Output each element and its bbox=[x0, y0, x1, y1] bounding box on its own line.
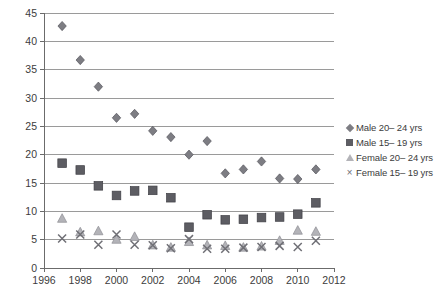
data-point-diamond bbox=[167, 133, 175, 142]
legend-item-male-15-19[interactable]: Male 15– 19 yrs bbox=[344, 135, 444, 150]
data-point-diamond bbox=[239, 165, 247, 174]
square-marker-icon bbox=[344, 136, 355, 149]
data-point-triangle bbox=[58, 214, 67, 223]
data-point-cross bbox=[312, 237, 320, 245]
data-point-square bbox=[130, 187, 139, 196]
data-point-diamond bbox=[130, 109, 138, 118]
data-point-diamond bbox=[294, 174, 302, 183]
y-axis-tick-label: 25 bbox=[25, 120, 37, 132]
data-point-triangle bbox=[94, 226, 103, 235]
data-point-diamond bbox=[76, 55, 84, 64]
data-point-triangle bbox=[130, 232, 139, 241]
data-point-triangle bbox=[293, 226, 302, 235]
legend-label: Female 20– 24 yrs bbox=[356, 152, 433, 163]
legend-label: Male 20– 24 yrs bbox=[356, 122, 422, 133]
data-point-diamond bbox=[275, 174, 283, 183]
series-2-markers bbox=[58, 159, 320, 232]
data-point-square bbox=[148, 186, 157, 195]
x-axis-tick-label: 1996 bbox=[32, 274, 56, 286]
x-axis-tick-label: 2002 bbox=[141, 274, 165, 286]
data-point-square bbox=[58, 159, 67, 168]
legend-item-male-20-24[interactable]: Male 20– 24 yrs bbox=[344, 120, 444, 135]
y-axis-tick-label: 45 bbox=[25, 7, 37, 19]
x-axis-tick-label: 2012 bbox=[322, 274, 346, 286]
data-point-square bbox=[239, 215, 248, 224]
x-axis-tick-label: 2008 bbox=[250, 274, 274, 286]
data-point-diamond bbox=[58, 21, 66, 30]
data-point-diamond bbox=[112, 113, 120, 122]
legend-label: Female 15– 19 yrs bbox=[356, 167, 433, 178]
data-point-diamond bbox=[312, 165, 320, 174]
data-point-diamond bbox=[203, 136, 211, 145]
data-point-diamond bbox=[221, 169, 229, 178]
data-point-square bbox=[293, 210, 302, 219]
x-axis-tick-label: 1998 bbox=[69, 274, 93, 286]
data-point-square bbox=[112, 191, 121, 200]
data-point-square bbox=[167, 193, 176, 202]
x-axis-tick-label: 2004 bbox=[177, 274, 201, 286]
chart-legend: Male 20– 24 yrs Male 15– 19 yrs Female 2… bbox=[344, 120, 444, 180]
data-point-triangle bbox=[112, 235, 121, 244]
diamond-marker-icon bbox=[344, 121, 355, 134]
y-axis-tick-label: 0 bbox=[31, 262, 37, 274]
y-axis-tick-label: 10 bbox=[25, 205, 37, 217]
data-point-cross bbox=[94, 241, 102, 249]
data-point-square bbox=[257, 213, 266, 222]
data-point-cross bbox=[58, 235, 66, 243]
data-point-square bbox=[94, 182, 103, 191]
x-axis-tick-label: 2000 bbox=[105, 274, 129, 286]
y-axis-tick-label: 30 bbox=[25, 92, 37, 104]
data-point-triangle bbox=[311, 227, 320, 236]
data-point-square bbox=[221, 216, 230, 225]
y-axis-tick-label: 5 bbox=[31, 233, 37, 245]
y-axis-tick-label: 35 bbox=[25, 63, 37, 75]
x-axis-tick-label: 2010 bbox=[286, 274, 310, 286]
scatter-chart: 0510152025303540451996199820002002200420… bbox=[0, 0, 445, 305]
data-point-cross bbox=[131, 241, 139, 249]
y-axis-tick-label: 15 bbox=[25, 177, 37, 189]
legend-item-female-15-19[interactable]: × Female 15– 19 yrs bbox=[344, 165, 444, 180]
data-point-diamond bbox=[149, 126, 157, 135]
legend-label: Male 15– 19 yrs bbox=[356, 137, 422, 148]
data-point-cross bbox=[294, 243, 302, 251]
cross-marker-icon: × bbox=[344, 166, 355, 179]
data-point-square bbox=[185, 223, 194, 232]
data-point-diamond bbox=[185, 150, 193, 159]
data-point-square bbox=[312, 199, 321, 208]
data-point-diamond bbox=[257, 157, 265, 166]
triangle-marker-icon bbox=[344, 151, 355, 164]
series-1-markers bbox=[58, 21, 320, 183]
data-point-diamond bbox=[94, 82, 102, 91]
data-point-square bbox=[203, 210, 212, 219]
y-axis-tick-label: 20 bbox=[25, 148, 37, 160]
x-axis-tick-label: 2006 bbox=[214, 274, 238, 286]
legend-item-female-20-24[interactable]: Female 20– 24 yrs bbox=[344, 150, 444, 165]
data-point-square bbox=[76, 166, 85, 175]
y-axis-tick-label: 40 bbox=[25, 35, 37, 47]
data-point-square bbox=[275, 213, 284, 222]
